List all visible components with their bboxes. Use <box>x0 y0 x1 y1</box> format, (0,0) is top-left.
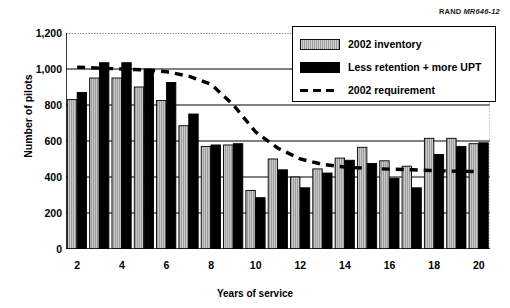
x-axis-tick-label: 18 <box>428 260 440 271</box>
x-axis-tick-label: 10 <box>250 260 262 271</box>
y-axis-tick-label: 1,200 <box>16 28 62 39</box>
x-axis-tick-label: 14 <box>339 260 351 271</box>
x-axis-tick-label: 4 <box>119 260 125 271</box>
bar <box>189 114 198 249</box>
bar <box>357 147 366 249</box>
bar <box>157 101 166 250</box>
x-axis-tick-labels: 2468101214161820 <box>66 256 490 274</box>
bar <box>112 78 121 249</box>
bar <box>335 158 344 249</box>
legend-label-requirement: 2002 requirement <box>348 84 435 96</box>
bar <box>122 63 131 249</box>
x-axis-title: Years of service <box>0 288 510 299</box>
legend-label-inventory: 2002 inventory <box>348 38 422 50</box>
x-axis-tick-label: 12 <box>294 260 306 271</box>
bar <box>469 144 478 249</box>
chart-legend: 2002 inventory Less retention + more UPT… <box>292 26 496 102</box>
bar <box>77 92 86 249</box>
x-axis-tick-label: 6 <box>163 260 169 271</box>
x-axis-tick-label: 16 <box>384 260 396 271</box>
bar <box>390 178 399 249</box>
x-axis-tick-label: 2 <box>74 260 80 271</box>
x-axis-tick-label: 20 <box>473 260 485 271</box>
bar <box>201 146 210 249</box>
legend-item-less-retention[interactable]: Less retention + more UPT <box>300 56 488 78</box>
bar <box>144 69 153 249</box>
bar <box>479 143 488 249</box>
x-axis-tick-label: 8 <box>208 260 214 271</box>
bar <box>457 146 466 249</box>
bar <box>278 170 287 249</box>
bar <box>367 164 376 250</box>
bar <box>447 138 456 249</box>
y-axis-tick-label: 400 <box>16 172 62 183</box>
y-axis-tick-label: 600 <box>16 136 62 147</box>
bar <box>256 198 265 249</box>
bar <box>246 191 255 250</box>
y-axis-tick-label: 800 <box>16 100 62 111</box>
bar <box>412 188 421 249</box>
bar <box>211 145 220 249</box>
bar <box>99 63 108 249</box>
bar <box>291 177 300 249</box>
bar <box>166 83 175 250</box>
source-credit-code: MR646-12 <box>463 7 500 16</box>
y-axis-tick-label: 1,000 <box>16 64 62 75</box>
legend-label-less-retention: Less retention + more UPT <box>348 61 481 73</box>
bar <box>345 160 354 249</box>
chart-figure: RANDMR646-12 Number of pilots Years of s… <box>0 0 510 308</box>
bar <box>224 145 233 249</box>
bar <box>402 166 411 249</box>
source-credit-prefix: RAND <box>439 7 461 16</box>
bar <box>90 78 99 249</box>
source-credit: RANDMR646-12 <box>439 7 500 16</box>
y-axis-tick-label: 200 <box>16 208 62 219</box>
bar <box>313 169 322 249</box>
black-bar-swatch-icon <box>300 62 340 73</box>
bar <box>179 126 188 249</box>
legend-item-inventory[interactable]: 2002 inventory <box>300 33 488 55</box>
bar <box>67 100 76 249</box>
bar <box>233 144 242 249</box>
dashed-line-swatch-icon <box>300 85 340 96</box>
bar <box>434 155 443 250</box>
legend-item-requirement[interactable]: 2002 requirement <box>300 79 488 101</box>
bar <box>134 87 143 249</box>
bar <box>268 159 277 249</box>
y-axis-tick-labels: 02004006008001,0001,200 <box>10 0 62 308</box>
bar <box>323 173 332 249</box>
gray-bar-swatch-icon <box>300 39 340 50</box>
bar <box>380 161 389 249</box>
bar <box>424 138 433 249</box>
y-axis-tick-label: 0 <box>16 244 62 255</box>
bar <box>300 188 309 249</box>
